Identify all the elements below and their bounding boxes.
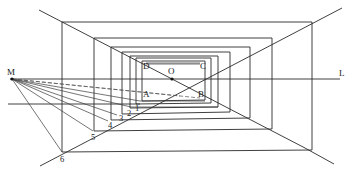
label-1: 1 — [135, 103, 139, 113]
label-L: L — [339, 68, 345, 78]
label-6: 6 — [60, 154, 64, 164]
label-B: B — [198, 89, 204, 99]
label-C: C — [200, 61, 206, 71]
label-O: O — [168, 66, 175, 76]
label-3: 3 — [119, 113, 123, 123]
diagram-canvas: M O L A B C D 1 2 3 4 5 6 — [0, 0, 350, 173]
perspective-diagram: M O L A B C D 1 2 3 4 5 6 — [0, 0, 350, 173]
label-2: 2 — [127, 108, 131, 118]
diagonal-top-right-to-bottom-left — [40, 8, 342, 166]
point-O — [170, 77, 173, 80]
label-M: M — [7, 67, 15, 77]
label-A: A — [143, 89, 150, 99]
label-D: D — [143, 61, 150, 71]
point-M — [10, 77, 13, 80]
label-5: 5 — [91, 132, 95, 142]
rays-from-M — [12, 79, 200, 152]
